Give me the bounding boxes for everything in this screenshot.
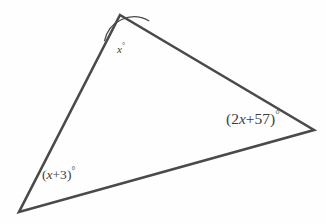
angle-label-bottom-left: (x+3)°: [42, 168, 75, 182]
right-rest: +57: [246, 110, 270, 127]
angle-label-apex: x°: [117, 44, 125, 55]
angle-label-right: (2x+57)°: [226, 111, 280, 127]
apex-degree-symbol: °: [122, 41, 125, 50]
right-open-paren: (2: [226, 110, 239, 127]
geometry-figure: x° (x+3)° (2x+57)°: [0, 0, 326, 224]
bottom-left-rest: +3: [53, 167, 67, 182]
right-degree-symbol: °: [275, 108, 279, 120]
bottom-left-degree-symbol: °: [71, 165, 75, 176]
right-variable: x: [239, 110, 246, 127]
